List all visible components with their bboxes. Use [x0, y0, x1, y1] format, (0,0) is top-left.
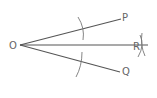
angle-bisector-diagram: O P R Q: [0, 0, 157, 98]
construction-arc-lower: [76, 52, 82, 77]
label-o: O: [9, 40, 17, 51]
construction-arc-upper: [78, 17, 83, 40]
label-p: P: [122, 12, 128, 23]
label-q: Q: [122, 66, 130, 77]
ray-op: [20, 19, 121, 45]
ray-oq: [20, 45, 120, 72]
label-r: R: [133, 41, 140, 52]
